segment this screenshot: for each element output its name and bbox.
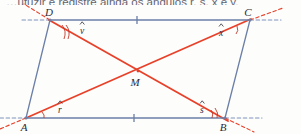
vertex-label-D: D bbox=[44, 6, 53, 18]
angle-arc-C bbox=[236, 26, 238, 34]
side-BC bbox=[225, 20, 250, 118]
dashed-BC-lower bbox=[225, 118, 254, 132]
vertex-dot-C bbox=[249, 19, 252, 22]
vertex-dot-A bbox=[25, 117, 28, 120]
angle-arc-B-outer bbox=[211, 110, 213, 118]
angle-label-v: v bbox=[80, 26, 85, 36]
vertex-label-M: M bbox=[129, 76, 140, 88]
angle-label-v-hat bbox=[80, 22, 84, 25]
vertex-label-B: B bbox=[220, 121, 227, 133]
angle-label-x: x bbox=[218, 28, 224, 38]
vertex-label-A: A bbox=[20, 121, 28, 133]
side-AD bbox=[26, 20, 50, 118]
parallelogram-diagram: vxrs ABCDM bbox=[0, 0, 301, 134]
angle-label-r: r bbox=[58, 105, 62, 115]
dashed-BC-upper bbox=[250, 8, 283, 20]
angle-labels: vxrs bbox=[58, 22, 224, 115]
vertex-label-C: C bbox=[244, 6, 252, 18]
vertex-dot-B bbox=[224, 117, 227, 120]
diagonal-AC bbox=[26, 19, 251, 118]
vertex-dot-D bbox=[49, 19, 52, 22]
angle-label-s: s bbox=[200, 105, 204, 115]
angle-label-s-hat bbox=[200, 101, 204, 104]
angle-arc-A bbox=[42, 112, 44, 118]
vertex-dot-M bbox=[137, 70, 140, 73]
angle-label-x-hat bbox=[219, 24, 223, 27]
angle-arc-D-inner bbox=[66, 25, 69, 39]
